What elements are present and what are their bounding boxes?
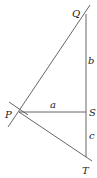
label-t: T (82, 165, 90, 176)
diagram-canvas: Q P S T a b c (0, 0, 97, 178)
line-qp-extended (8, 5, 90, 127)
geometry-diagram: Q P S T a b c (0, 0, 97, 178)
tick-mark-p (9, 102, 28, 115)
label-s: S (89, 107, 96, 118)
label-a: a (50, 99, 56, 110)
label-q: Q (72, 8, 80, 19)
label-c: c (89, 130, 95, 141)
segment-pt (19, 112, 92, 161)
label-b: b (88, 55, 94, 66)
label-p: P (4, 109, 12, 120)
